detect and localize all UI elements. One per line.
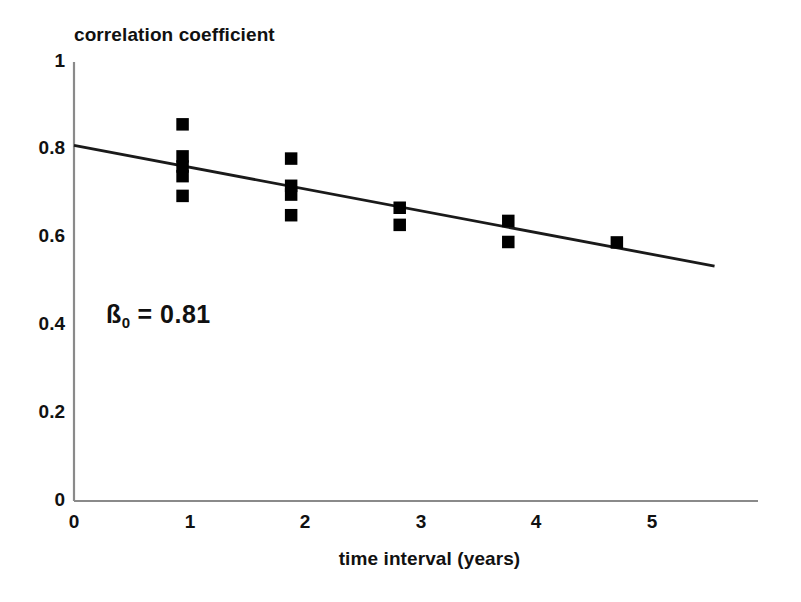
x-tick-label-0: 0	[54, 511, 94, 533]
x-tick-label-3: 3	[401, 511, 441, 533]
data-point-marker	[393, 219, 406, 232]
chart-figure: correlation coefficient 0 0.2 0.4 0.6 0.…	[0, 0, 801, 602]
data-point-marker	[176, 170, 189, 183]
y-tick-label-0.8: 0.8	[5, 137, 65, 159]
x-axis-title: time interval (years)	[29, 548, 801, 570]
beta-symbol: ß	[106, 300, 122, 328]
beta-intercept-annotation: ß0 = 0.81	[106, 300, 211, 329]
beta-value: = 0.81	[130, 300, 211, 328]
y-tick-label-0: 0	[5, 489, 65, 511]
x-tick-label-5: 5	[632, 511, 672, 533]
data-point-marker	[393, 201, 406, 214]
y-tick-label-0.2: 0.2	[5, 401, 65, 423]
x-tick-label-1: 1	[170, 511, 210, 533]
data-point-marker	[502, 215, 515, 228]
y-tick-label-0.6: 0.6	[5, 225, 65, 247]
beta-subscript: 0	[122, 314, 130, 331]
data-point-marker	[285, 209, 298, 222]
x-tick-label-4: 4	[516, 511, 556, 533]
y-tick-label-1: 1	[5, 50, 65, 72]
data-point-marker	[285, 188, 298, 201]
data-point-marker	[176, 118, 189, 131]
data-point-marker	[285, 152, 298, 165]
x-tick-label-2: 2	[285, 511, 325, 533]
data-point-marker	[611, 236, 624, 249]
data-points	[176, 118, 623, 249]
data-point-marker	[502, 236, 515, 249]
y-tick-label-0.4: 0.4	[5, 313, 65, 335]
data-point-marker	[176, 190, 189, 203]
